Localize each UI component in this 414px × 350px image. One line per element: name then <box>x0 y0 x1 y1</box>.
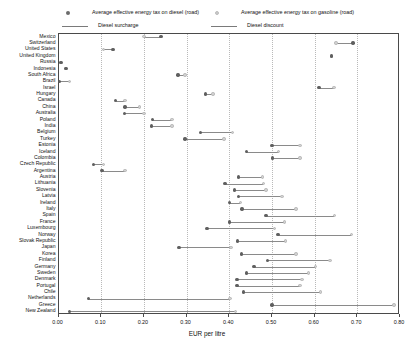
gasoline-point[interactable] <box>142 35 145 38</box>
category-label-sweden: Sweden <box>37 270 55 275</box>
diesel-point[interactable] <box>100 169 103 172</box>
diesel-point[interactable] <box>245 271 248 274</box>
gasoline-point[interactable] <box>234 310 237 313</box>
diesel-point[interactable] <box>240 207 243 210</box>
diesel-point[interactable] <box>276 233 279 236</box>
diesel-point[interactable] <box>237 175 240 178</box>
gasoline-point[interactable] <box>307 271 310 274</box>
diesel-point[interactable] <box>235 284 238 287</box>
gasoline-point[interactable] <box>298 156 301 159</box>
gasoline-point[interactable] <box>334 41 337 44</box>
diesel-point[interactable] <box>235 278 238 281</box>
diesel-point[interactable] <box>59 61 62 64</box>
gasoline-point[interactable] <box>392 303 395 306</box>
connector-line <box>237 279 302 280</box>
diesel-point[interactable] <box>270 144 273 147</box>
diesel-point[interactable] <box>266 259 269 262</box>
gasoline-point[interactable] <box>261 175 264 178</box>
diesel-point[interactable] <box>245 150 248 153</box>
diesel-point[interactable] <box>317 86 320 89</box>
gasoline-point[interactable] <box>298 144 301 147</box>
legend-item-diesel[interactable]: Average effective energy tax on diesel (… <box>66 10 199 15</box>
gasoline-point[interactable] <box>222 137 225 140</box>
diesel-point[interactable] <box>240 252 243 255</box>
diesel-point[interactable] <box>228 220 231 223</box>
gasoline-point[interactable] <box>239 201 242 204</box>
gasoline-point[interactable] <box>142 112 145 115</box>
diesel-point[interactable] <box>177 246 180 249</box>
gasoline-point[interactable] <box>328 259 331 262</box>
diesel-point[interactable] <box>92 163 95 166</box>
category-label-greece: Greece <box>39 302 56 307</box>
gasoline-point[interactable] <box>123 99 126 102</box>
diesel-point[interactable] <box>68 310 71 313</box>
diesel-point[interactable] <box>242 290 245 293</box>
diesel-point[interactable] <box>236 239 239 242</box>
diesel-point[interactable] <box>64 67 67 70</box>
gasoline-point[interactable] <box>264 188 267 191</box>
legend-label-gasoline: Average effective energy tax on gasoline… <box>241 10 354 15</box>
diesel-point[interactable] <box>330 54 333 57</box>
x-tick-mark <box>314 314 315 317</box>
connector-line <box>246 273 308 274</box>
diesel-point[interactable] <box>237 195 240 198</box>
diesel-point[interactable] <box>199 131 202 134</box>
x-tick-label: 0.50 <box>266 319 277 325</box>
gasoline-point[interactable] <box>294 207 297 210</box>
gasoline-point[interactable] <box>102 163 105 166</box>
gasoline-point[interactable] <box>298 284 301 287</box>
diesel-point[interactable] <box>204 92 207 95</box>
diesel-point[interactable] <box>150 124 153 127</box>
diesel-point[interactable] <box>176 73 179 76</box>
gasoline-point[interactable] <box>229 246 232 249</box>
diesel-point[interactable] <box>270 303 273 306</box>
gasoline-point[interactable] <box>262 182 265 185</box>
gasoline-point[interactable] <box>102 48 105 51</box>
diesel-point[interactable] <box>114 99 117 102</box>
gasoline-point[interactable] <box>333 214 336 217</box>
gasoline-point[interactable] <box>228 297 231 300</box>
gasoline-point[interactable] <box>211 92 214 95</box>
gasoline-point[interactable] <box>294 252 297 255</box>
gasoline-point[interactable] <box>138 105 141 108</box>
gasoline-point[interactable] <box>170 124 173 127</box>
diesel-point[interactable] <box>223 182 226 185</box>
gasoline-point[interactable] <box>183 73 186 76</box>
diesel-point[interactable] <box>271 156 274 159</box>
diesel-point[interactable] <box>58 80 61 83</box>
gasoline-point[interactable] <box>231 131 234 134</box>
gasoline-point[interactable] <box>319 290 322 293</box>
diesel-point[interactable] <box>159 35 162 38</box>
diesel-point[interactable] <box>228 201 231 204</box>
diesel-point[interactable] <box>111 48 114 51</box>
gasoline-point[interactable] <box>350 233 353 236</box>
diesel-point[interactable] <box>252 265 255 268</box>
gasoline-point[interactable] <box>277 150 280 153</box>
legend-item-diesel-discount[interactable]: Diesel discount <box>211 23 284 28</box>
diesel-point[interactable] <box>233 188 236 191</box>
diesel-point[interactable] <box>123 105 126 108</box>
diesel-point[interactable] <box>205 227 208 230</box>
diesel-point[interactable] <box>151 118 154 121</box>
legend-item-diesel-surcharge[interactable]: Diesel surcharge <box>62 23 138 28</box>
gasoline-point[interactable] <box>332 86 335 89</box>
gasoline-point[interactable] <box>300 278 303 281</box>
gasoline-point[interactable] <box>273 227 276 230</box>
gasoline-point[interactable] <box>68 80 71 83</box>
gasoline-point[interactable] <box>170 118 173 121</box>
x-axis-title: EUR per litre <box>0 330 414 337</box>
gasoline-point[interactable] <box>123 169 126 172</box>
diesel-point[interactable] <box>264 214 267 217</box>
diesel-point[interactable] <box>87 297 90 300</box>
gasoline-point[interactable] <box>280 195 283 198</box>
diesel-point[interactable] <box>123 112 126 115</box>
gasoline-dot-icon <box>215 11 219 15</box>
diesel-point[interactable] <box>351 41 354 44</box>
gasoline-point[interactable] <box>284 239 287 242</box>
gasoline-point[interactable] <box>283 220 286 223</box>
diesel-point[interactable] <box>183 137 186 140</box>
connector-line <box>229 222 284 223</box>
category-label-south-africa: South Africa <box>28 72 55 77</box>
gasoline-point[interactable] <box>314 265 317 268</box>
legend-item-gasoline[interactable]: Average effective energy tax on gasoline… <box>215 10 354 15</box>
